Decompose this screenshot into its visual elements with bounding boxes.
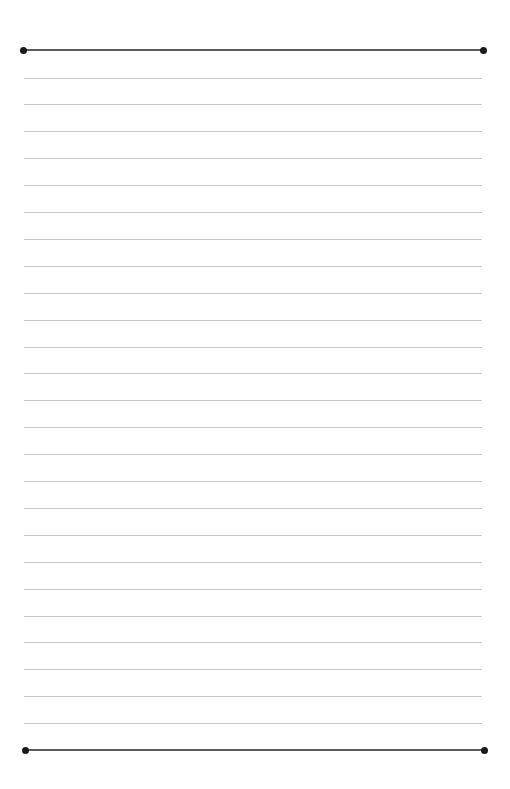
ruled-line bbox=[24, 131, 482, 132]
ruled-line bbox=[24, 723, 482, 724]
ruled-line bbox=[24, 400, 482, 401]
bottom-border-line bbox=[25, 749, 484, 751]
top-border-line bbox=[23, 49, 483, 51]
ruled-line bbox=[24, 347, 482, 348]
top-right-dot bbox=[480, 47, 487, 54]
ruled-line bbox=[24, 642, 482, 643]
ruled-line bbox=[24, 535, 482, 536]
bottom-left-dot bbox=[22, 747, 29, 754]
ruled-line bbox=[24, 239, 482, 240]
ruled-line bbox=[24, 185, 482, 186]
ruled-line bbox=[24, 481, 482, 482]
bottom-right-dot bbox=[481, 747, 488, 754]
lined-paper-page bbox=[0, 0, 510, 789]
top-left-dot bbox=[20, 47, 27, 54]
ruled-line bbox=[24, 454, 482, 455]
ruled-line bbox=[24, 589, 482, 590]
ruled-line bbox=[24, 78, 482, 79]
ruled-line bbox=[24, 562, 482, 563]
ruled-line bbox=[24, 104, 482, 105]
ruled-line bbox=[24, 293, 482, 294]
ruled-line bbox=[24, 266, 482, 267]
ruled-line bbox=[24, 669, 482, 670]
ruled-line bbox=[24, 427, 482, 428]
ruled-line bbox=[24, 320, 482, 321]
ruled-line bbox=[24, 373, 482, 374]
ruled-line bbox=[24, 508, 482, 509]
ruled-line bbox=[24, 696, 482, 697]
ruled-line bbox=[24, 616, 482, 617]
ruled-line bbox=[24, 158, 482, 159]
ruled-line bbox=[24, 212, 482, 213]
